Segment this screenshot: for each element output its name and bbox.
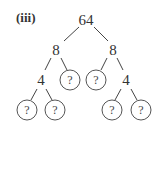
- edge-l8-q: [61, 58, 67, 70]
- node-left-4: 4: [37, 72, 45, 88]
- unknown-node: ?: [24, 103, 29, 117]
- edge-l8-l4: [45, 58, 51, 70]
- edge-root-right: [94, 27, 108, 41]
- node-left-8: 8: [52, 42, 60, 58]
- part-label: (iii): [16, 10, 36, 25]
- edge-r4-q2: [131, 89, 137, 100]
- edge-root-left: [64, 27, 79, 41]
- unknown-node: ?: [52, 103, 57, 117]
- unknown-node: ?: [93, 73, 98, 87]
- node-right-8: 8: [109, 42, 117, 58]
- factor-tree-diagram: (iii) 64 8 8 4 ? ? 4 ? ? ? ?: [0, 0, 159, 178]
- root-node: 64: [79, 12, 95, 28]
- unknown-node: ?: [138, 103, 143, 117]
- unknown-node: ?: [109, 103, 114, 117]
- edge-l4-q1: [31, 89, 37, 100]
- node-right-4: 4: [122, 72, 130, 88]
- edge-l4-q2: [46, 89, 52, 100]
- edge-r8-q: [101, 58, 107, 70]
- edge-r8-r4: [117, 58, 123, 70]
- unknown-node: ?: [67, 73, 72, 87]
- edge-r4-q1: [115, 89, 121, 100]
